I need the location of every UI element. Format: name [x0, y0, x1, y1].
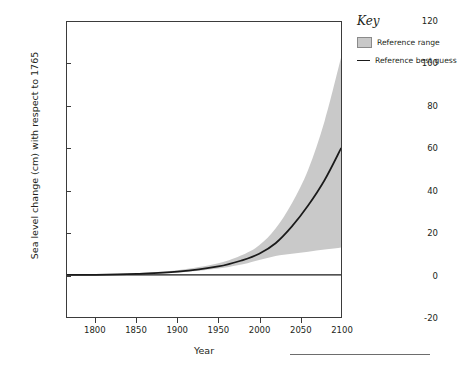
legend-item-reference-best-guess: Reference best guess	[357, 56, 447, 65]
y-tick-label: -20	[424, 314, 438, 323]
x-tick-mark	[95, 318, 96, 323]
y-tick-mark	[66, 276, 71, 277]
y-tick-label: 40	[427, 187, 438, 196]
bottom-divider	[290, 354, 430, 355]
plot-svg	[67, 22, 341, 317]
x-tick-label: 2050	[281, 326, 321, 335]
y-tick-label: 20	[427, 229, 438, 238]
legend-title: Key	[357, 14, 447, 28]
x-tick-mark	[301, 318, 302, 323]
x-tick-mark	[260, 318, 261, 323]
legend-label-reference-range: Reference range	[377, 38, 440, 47]
clipped-caption	[66, 0, 356, 4]
x-tick-label: 2000	[240, 326, 280, 335]
x-tick-label: 1850	[116, 326, 156, 335]
x-tick-label: 1900	[157, 326, 197, 335]
legend: Key Reference range Reference best guess	[357, 14, 447, 73]
reference-range-band	[67, 58, 341, 275]
legend-item-reference-range: Reference range	[357, 37, 447, 48]
y-axis: Sea level change (cm) with respect to 17…	[0, 0, 66, 367]
y-tick-mark	[66, 148, 71, 149]
y-tick-mark	[66, 106, 71, 107]
y-tick-label: 0	[433, 272, 438, 281]
legend-label-reference-best-guess: Reference best guess	[375, 56, 457, 65]
x-tick-label: 1950	[198, 326, 238, 335]
x-tick-mark	[177, 318, 178, 323]
x-tick-label: 2100	[322, 326, 362, 335]
x-tick-mark	[136, 318, 137, 323]
y-tick-mark	[66, 233, 71, 234]
range-swatch-icon	[357, 37, 372, 48]
y-tick-mark	[66, 191, 71, 192]
plot-area	[66, 21, 342, 318]
x-tick-mark	[218, 318, 219, 323]
y-tick-label: 60	[427, 144, 438, 153]
x-tick-label: 1800	[75, 326, 115, 335]
line-swatch-icon	[357, 60, 370, 61]
y-tick-mark	[66, 63, 71, 64]
y-tick-label: 80	[427, 102, 438, 111]
y-axis-title: Sea level change (cm) with respect to 17…	[29, 26, 40, 286]
